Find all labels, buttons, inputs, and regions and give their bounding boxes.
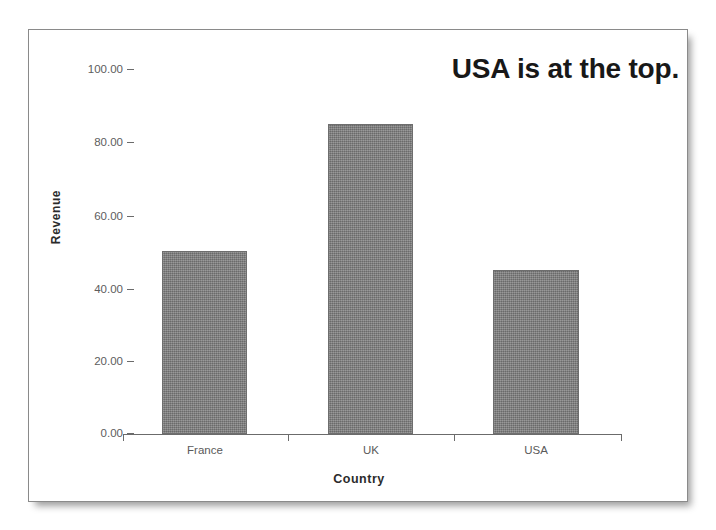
x-axis-line	[123, 434, 622, 435]
y-tick-mark-20	[127, 361, 134, 362]
x-tick-mark-end	[621, 434, 622, 441]
x-category-label-france: France	[145, 444, 265, 456]
y-tick-label-100: 100.00	[51, 64, 123, 76]
chart-frame: USA is at the top. Revenue 100.00 80.00 …	[28, 29, 688, 502]
x-tick-mark-1	[288, 434, 289, 441]
x-category-label-uk: UK	[311, 444, 431, 456]
y-tick-label-80: 80.00	[51, 137, 123, 149]
y-tick-mark-40	[127, 289, 134, 290]
x-axis-title: Country	[29, 472, 689, 486]
bar-france[interactable]	[162, 251, 247, 434]
x-category-label-usa: USA	[476, 444, 596, 456]
chart-annotation: USA is at the top.	[389, 53, 679, 85]
plot-area: USA is at the top. Revenue 100.00 80.00 …	[29, 30, 689, 503]
y-tick-label-60: 60.00	[51, 211, 123, 223]
y-tick-mark-60	[127, 216, 134, 217]
y-tick-label-0: 0.00	[51, 428, 123, 440]
screenshot-root: USA is at the top. Revenue 100.00 80.00 …	[0, 0, 716, 530]
y-tick-label-20: 20.00	[51, 356, 123, 368]
y-tick-label-40: 40.00	[51, 284, 123, 296]
x-tick-mark-start	[123, 434, 124, 441]
y-tick-mark-100	[127, 69, 134, 70]
y-tick-mark-80	[127, 142, 134, 143]
bar-usa[interactable]	[493, 270, 579, 434]
bar-uk[interactable]	[328, 124, 413, 434]
x-tick-mark-2	[454, 434, 455, 441]
